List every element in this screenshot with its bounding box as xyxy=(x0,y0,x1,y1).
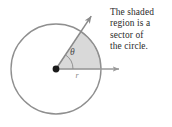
caption-line-1: The shaded xyxy=(110,7,170,18)
circle-sector-figure: θ r The shaded region is a sector of the… xyxy=(0,0,172,127)
radius-label: r xyxy=(76,72,79,80)
caption-line-3: sector of xyxy=(110,30,170,41)
shaded-sector xyxy=(56,32,101,69)
caption-text: The shaded region is a sector of the cir… xyxy=(110,7,170,52)
theta-label: θ xyxy=(70,48,75,58)
caption-line-2: region is a xyxy=(110,18,170,29)
center-point-dot xyxy=(53,66,60,73)
caption-line-4: the circle. xyxy=(110,41,170,52)
